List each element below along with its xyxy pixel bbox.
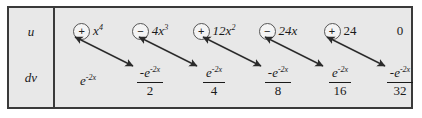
fraction-1: -e-2x 2 <box>137 66 163 99</box>
circled-plus-icon: + <box>193 23 210 40</box>
u-cell-3: − 24x <box>245 18 311 44</box>
dv-denominator-2: 4 <box>211 83 218 99</box>
dv-cell-4: e-2x 16 <box>307 66 373 108</box>
u-cell-0: + x4 <box>55 18 121 44</box>
fraction-3: -e-2x 8 <box>265 66 291 99</box>
row-label-dv: dv <box>9 70 53 86</box>
dv-numerator-1: -e-2x <box>137 66 163 82</box>
fraction-5: -e-2x 32 <box>387 66 413 99</box>
dv-denominator-5: 32 <box>393 83 406 99</box>
tabular-integration-table: u dv + x4 − 4x3 + 12x2 − 24x + 24 0 e-2x… <box>7 6 413 109</box>
u-term-2: 12x2 <box>213 23 236 39</box>
dv-denominator-1: 2 <box>147 83 154 99</box>
dv-cell-0: e-2x <box>55 66 121 108</box>
dv-numerator-2: e-2x <box>203 66 225 82</box>
dv-numerator-4: e-2x <box>329 66 351 82</box>
dv-numerator-5: -e-2x <box>387 66 413 82</box>
dv-denominator-4: 16 <box>334 83 347 99</box>
dv-cell-5: -e-2x 32 <box>367 66 422 108</box>
u-cell-5: 0 <box>367 18 422 44</box>
circled-minus-icon: − <box>259 23 276 40</box>
dv-cell-2: e-2x 4 <box>181 66 247 108</box>
fraction-4: e-2x 16 <box>329 66 351 99</box>
u-cell-1: − 4x3 <box>117 18 183 44</box>
u-term-5: 0 <box>397 23 404 39</box>
circled-plus-icon: + <box>324 23 341 40</box>
row-label-u: u <box>9 24 53 40</box>
u-term-0: x4 <box>93 23 103 39</box>
circled-plus-icon: + <box>73 23 90 40</box>
dv-denominator-3: 8 <box>275 83 282 99</box>
u-term-3: 24x <box>279 23 298 39</box>
dv-expression-0: e-2x <box>80 66 96 89</box>
fraction-2: e-2x 4 <box>203 66 225 99</box>
circled-minus-icon: − <box>132 23 149 40</box>
u-cell-2: + 12x2 <box>181 18 247 44</box>
u-term-4: 24 <box>344 23 357 39</box>
dv-numerator-3: -e-2x <box>265 66 291 82</box>
dv-cell-1: -e-2x 2 <box>117 66 183 108</box>
u-term-1: 4x3 <box>152 23 168 39</box>
u-cell-4: + 24 <box>307 18 373 44</box>
dv-cell-3: -e-2x 8 <box>245 66 311 108</box>
